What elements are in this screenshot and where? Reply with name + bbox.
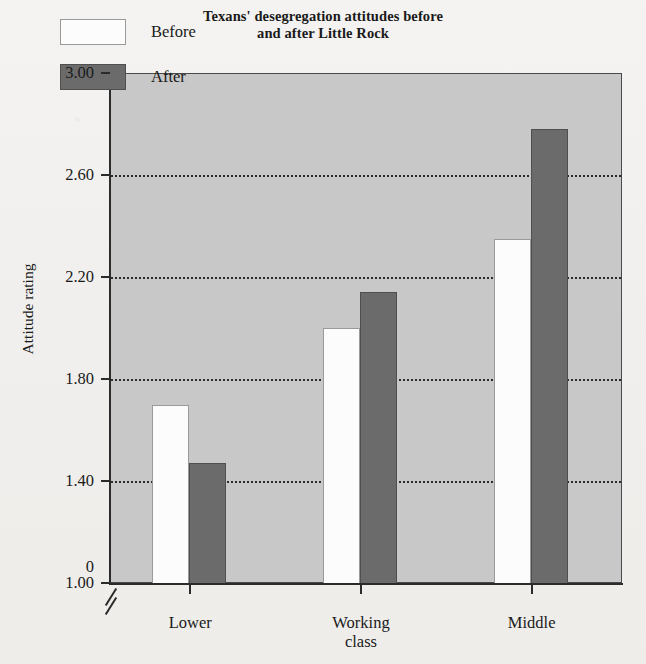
y-axis-tick-label: 3.00 <box>24 65 94 81</box>
bar-before-working-class <box>323 328 360 583</box>
legend-item-before: Before <box>60 19 196 45</box>
y-axis-tick-label: 2.20 <box>24 269 94 285</box>
x-axis-tick-label: Lower <box>110 613 270 632</box>
y-axis-tick <box>101 378 110 380</box>
bar-before-lower <box>152 405 189 584</box>
x-axis-line <box>109 583 623 585</box>
y-axis-tick <box>101 480 110 482</box>
y-axis-origin-label: 0 <box>24 559 94 575</box>
y-axis-tick <box>101 582 110 584</box>
y-axis-tick-label: 1.00 <box>24 575 94 591</box>
x-axis-tick-label-line: Middle <box>452 613 612 632</box>
bar-after-middle <box>531 129 568 583</box>
bar-after-working-class <box>360 292 397 583</box>
y-axis-line <box>109 72 111 584</box>
bar-after-lower <box>189 463 226 583</box>
x-axis-tick-label-line: class <box>281 632 441 651</box>
x-axis-tick-label: Middle <box>452 613 612 632</box>
y-axis-tick-label: 2.60 <box>24 167 94 183</box>
x-axis-tick <box>189 585 191 594</box>
legend-swatch-before <box>60 19 126 45</box>
y-axis-tick <box>101 174 110 176</box>
legend-label-before: Before <box>151 22 196 42</box>
x-axis-tick-label-line: Lower <box>110 613 270 632</box>
x-axis-tick <box>531 585 533 594</box>
y-axis-tick <box>101 72 110 74</box>
x-axis-tick <box>360 585 362 594</box>
legend-label-after: After <box>151 67 186 87</box>
x-axis-tick-label-line: Working <box>281 613 441 632</box>
y-axis-tick-label: 1.80 <box>24 371 94 387</box>
y-axis-tick <box>101 276 110 278</box>
x-axis-tick-label: Workingclass <box>281 613 441 651</box>
bar-before-middle <box>494 239 531 583</box>
y-axis-tick-label: 1.40 <box>24 473 94 489</box>
bar-chart: Texans' desegregation attitudes before a… <box>0 0 646 664</box>
